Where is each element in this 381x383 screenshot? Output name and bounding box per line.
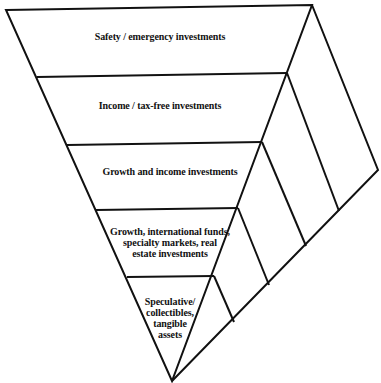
side-face-edges xyxy=(172,5,378,381)
side-divider-4 xyxy=(214,276,234,322)
side-divider-2 xyxy=(262,142,306,246)
side-divider-1 xyxy=(287,73,339,211)
tier-divider-2 xyxy=(67,142,262,145)
tier-label-income: Income / tax-free investments xyxy=(80,100,240,111)
tier-label-growth-international: Growth, international funds, specialty m… xyxy=(105,226,235,259)
tier-label-growth-income: Growth and income investments xyxy=(85,166,255,177)
tier-divider-1 xyxy=(37,73,287,77)
tier-divider-4 xyxy=(127,276,214,277)
tier-divider-3 xyxy=(96,208,238,210)
side-divider-3 xyxy=(238,208,269,285)
tier-label-safety: Safety / emergency investments xyxy=(70,31,250,42)
investment-pyramid-diagram: Safety / emergency investments Income / … xyxy=(0,0,381,383)
tier-label-speculative: Speculative/ collectibles, tangible asse… xyxy=(140,296,200,340)
